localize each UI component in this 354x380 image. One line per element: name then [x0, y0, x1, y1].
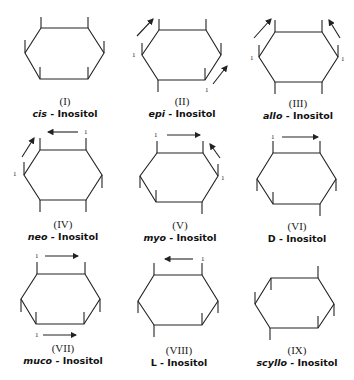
neo-inositol-ring — [22, 132, 102, 212]
name-allo: allo - Inositol — [238, 110, 354, 121]
numeral-v: (V) — [125, 219, 235, 231]
cis-inositol-ring — [25, 17, 104, 79]
svg-text:1: 1 — [201, 255, 205, 263]
svg-text:1: 1 — [35, 252, 39, 260]
numeral-vii: (VII) — [8, 342, 118, 354]
name-d: D - Inositol — [237, 233, 354, 244]
name-epi: epi - Inositol — [122, 108, 242, 119]
svg-text:1: 1 — [271, 133, 275, 141]
name-myo: myo - Inositol — [120, 232, 240, 243]
allo-inositol-ring — [254, 19, 340, 94]
numeral-viii: (VIII) — [124, 344, 234, 356]
l-inositol-ring — [138, 259, 218, 337]
scyllo-inositol-ring — [255, 266, 334, 340]
d-inositol-ring — [257, 137, 336, 216]
name-muco: muco - Inositol — [3, 355, 123, 366]
name-cis: cis - Inositol — [5, 108, 125, 119]
epi-inositol-ring — [137, 19, 227, 92]
inositol-structures: 11 11 11 11 1 11 1 — [0, 0, 354, 380]
numeral-ix: (IX) — [242, 344, 352, 356]
svg-text:1: 1 — [205, 86, 209, 94]
name-neo: neo - Inositol — [3, 231, 123, 242]
svg-text:1: 1 — [154, 131, 158, 139]
svg-text:1: 1 — [341, 55, 345, 63]
svg-text:1: 1 — [221, 174, 225, 182]
svg-text:1: 1 — [250, 54, 254, 62]
name-l: L - Inositol — [119, 357, 239, 368]
svg-text:1: 1 — [13, 170, 17, 178]
numeral-iv: (IV) — [8, 218, 118, 230]
name-scyllo: scyllo - Inositol — [237, 357, 354, 368]
numeral-iii: (III) — [243, 97, 353, 109]
svg-text:1: 1 — [84, 128, 88, 136]
numeral-ii: (II) — [127, 95, 237, 107]
numeral-i: (I) — [10, 95, 120, 107]
svg-text:1: 1 — [132, 51, 136, 59]
myo-inositol-ring — [140, 135, 220, 214]
muco-inositol-ring — [21, 256, 100, 335]
svg-text:1: 1 — [35, 331, 39, 339]
numeral-vi: (VI) — [242, 220, 352, 232]
